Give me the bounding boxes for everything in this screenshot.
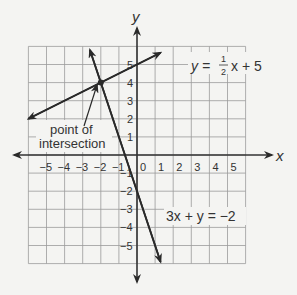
- svg-text:1: 1: [158, 161, 164, 173]
- equation-label-line1: y = 1 2 x + 5: [188, 52, 262, 77]
- svg-text:2: 2: [221, 67, 226, 77]
- plotted-lines: [28, 50, 160, 262]
- svg-text:3: 3: [194, 161, 200, 173]
- svg-text:point of: point of: [50, 122, 93, 137]
- svg-text:x + 5: x + 5: [231, 58, 262, 74]
- equation-label-line2: 3x + y = −2: [164, 207, 246, 225]
- svg-text:0: 0: [140, 161, 146, 173]
- svg-text:−2: −2: [120, 185, 133, 197]
- svg-text:4: 4: [127, 77, 133, 89]
- svg-text:−5: −5: [40, 161, 53, 173]
- svg-text:3x + y = −2: 3x + y = −2: [166, 208, 236, 224]
- x-axis-label: x: [275, 147, 284, 164]
- intersection-point: [98, 80, 104, 86]
- svg-text:−3: −3: [76, 161, 89, 173]
- svg-text:1: 1: [127, 131, 133, 143]
- svg-text:1: 1: [221, 54, 226, 64]
- svg-text:−3: −3: [120, 203, 133, 215]
- svg-text:−4: −4: [120, 221, 133, 233]
- y-axis-label: y: [131, 8, 141, 25]
- svg-text:2: 2: [127, 113, 133, 125]
- svg-text:2: 2: [176, 161, 182, 173]
- coordinate-plane: −5−4−3−2−101234554321−1−2−3−4−5 x y y = …: [0, 0, 297, 295]
- svg-text:y =: y =: [190, 58, 210, 74]
- svg-text:−2: −2: [94, 161, 107, 173]
- svg-text:−5: −5: [120, 240, 133, 252]
- svg-text:4: 4: [212, 161, 218, 173]
- svg-text:3: 3: [127, 95, 133, 107]
- svg-text:−4: −4: [58, 161, 71, 173]
- svg-text:5: 5: [231, 161, 237, 173]
- svg-text:intersection: intersection: [39, 136, 105, 151]
